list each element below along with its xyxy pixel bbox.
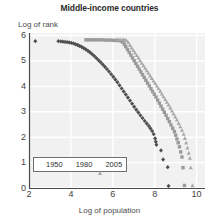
y-tick-label: 2 xyxy=(4,133,26,142)
data-point xyxy=(168,120,171,123)
data-point xyxy=(178,124,182,128)
diamond-marker-icon xyxy=(38,162,44,168)
data-point xyxy=(124,92,128,96)
data-point xyxy=(176,141,179,144)
data-point xyxy=(178,145,181,148)
data-point xyxy=(173,130,176,133)
data-point xyxy=(98,38,101,41)
x-tick-label: 8 xyxy=(145,189,165,199)
data-point xyxy=(166,117,169,120)
data-point xyxy=(33,39,37,43)
legend-label: 2005 xyxy=(105,160,122,169)
y-axis-ticks: 0123456 xyxy=(0,33,26,188)
triangle-marker-icon xyxy=(97,162,103,168)
chart-title: Middle-income countries xyxy=(0,3,219,13)
chart-figure: Middle-income countries Log of rank 0123… xyxy=(0,0,219,224)
legend-label: 1950 xyxy=(46,160,63,169)
data-point xyxy=(174,133,177,136)
data-point xyxy=(169,123,172,126)
x-axis-label: Log of population xyxy=(0,206,219,215)
data-point xyxy=(161,157,165,161)
x-tick-label: 10 xyxy=(187,189,207,199)
data-point xyxy=(161,108,164,111)
x-axis-ticks: 246810 xyxy=(29,189,205,203)
y-axis-label: Log of rank xyxy=(18,20,58,29)
data-point xyxy=(184,141,188,145)
data-point xyxy=(163,111,166,114)
data-point xyxy=(158,101,161,104)
data-point xyxy=(182,132,186,136)
data-point xyxy=(154,95,157,98)
y-tick-label: 5 xyxy=(4,56,26,65)
data-point xyxy=(188,156,192,160)
data-point xyxy=(185,146,189,150)
data-point xyxy=(171,127,174,130)
data-point xyxy=(181,166,184,169)
y-tick-label: 6 xyxy=(4,31,26,40)
x-tick-label: 6 xyxy=(103,189,123,199)
data-point xyxy=(190,183,194,187)
legend-item-2005[interactable]: 2005 xyxy=(97,160,122,169)
y-tick-label: 3 xyxy=(4,107,26,116)
data-point xyxy=(126,95,130,99)
data-point xyxy=(180,155,183,158)
data-point xyxy=(122,89,126,93)
legend-item-1980[interactable]: 1980 xyxy=(68,160,93,169)
data-point xyxy=(189,166,193,170)
data-point xyxy=(166,165,170,169)
data-point xyxy=(180,128,184,132)
data-point xyxy=(132,104,136,108)
data-point xyxy=(159,104,162,107)
x-tick-label: 2 xyxy=(19,189,39,199)
data-point xyxy=(187,151,191,155)
y-tick-label: 4 xyxy=(4,82,26,91)
square-marker-icon xyxy=(68,162,74,168)
y-tick-label: 1 xyxy=(4,158,26,167)
x-tick-label: 4 xyxy=(61,189,81,199)
data-point xyxy=(130,101,134,105)
data-point xyxy=(107,38,110,41)
data-point xyxy=(164,114,167,117)
legend-label: 1980 xyxy=(76,160,93,169)
data-point xyxy=(128,98,132,102)
data-point xyxy=(177,121,181,125)
legend-item-1950[interactable]: 1950 xyxy=(38,160,63,169)
data-point xyxy=(183,184,186,187)
data-point xyxy=(156,98,159,101)
legend: 1950 1980 2005 xyxy=(33,157,127,172)
data-point xyxy=(159,148,163,152)
data-point xyxy=(90,38,93,41)
data-point xyxy=(179,150,182,153)
data-point xyxy=(175,137,178,140)
